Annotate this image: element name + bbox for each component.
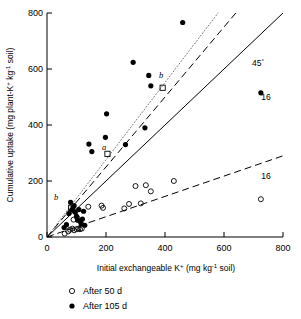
legend-label-after-50d: After 50 d: [83, 286, 122, 296]
annotation-count-lower: 16: [261, 171, 271, 181]
y-axis-title-end: soil): [5, 47, 15, 65]
x-tick-label-600: 600: [216, 243, 231, 253]
legend-label-after-105d: After 105 d: [83, 301, 127, 311]
y-axis-tick-labels: 0200400600800: [28, 8, 43, 242]
data-point-after-50d: [127, 201, 132, 206]
data-point-after-50d: [258, 197, 263, 202]
x-axis-title: Initial exchangeable K+ (mg kg-1 soil): [97, 263, 235, 273]
data-point-after-105d: [89, 149, 94, 154]
data-point-after-105d: [104, 111, 109, 116]
data-point-after-105d: [148, 83, 153, 88]
data-point-after-105d: [81, 209, 86, 214]
x-axis-title-end: soil): [217, 263, 235, 273]
data-point-after-105d: [80, 216, 85, 221]
data-point-after-105d: [146, 73, 151, 78]
y-tick-label-400: 400: [28, 120, 43, 130]
data-point-after-50d: [86, 204, 91, 209]
x-axis-title-mid: (mg kg: [184, 263, 213, 273]
line-one-to-one: [47, 13, 283, 237]
y-tick-label-200: 200: [28, 176, 43, 186]
x-tick-label-0: 0: [44, 243, 49, 253]
legend: After 50 d After 105 d: [69, 286, 127, 311]
annotation-letter-b-lower: b: [54, 192, 58, 202]
data-point-after-105d: [82, 223, 87, 228]
y-axis-title-main: Cumulative uptake (mg plant-K: [5, 85, 15, 202]
series-after-105d-points: [62, 20, 264, 230]
data-point-after-50d: [148, 189, 153, 194]
data-point-after-105d: [76, 207, 81, 212]
data-point-after-50d: [171, 179, 176, 184]
x-axis-tick-labels: 0200400600800: [44, 243, 290, 253]
figure-container: 45° 16 16 a b b 0200400600800 0200400600…: [0, 0, 301, 319]
data-point-after-105d: [123, 142, 128, 147]
series-after-50d-points: [62, 179, 263, 237]
annotation-45-degree: 45°: [252, 58, 264, 68]
legend-marker-filled-circle: [69, 303, 74, 308]
x-tick-label-200: 200: [98, 243, 113, 253]
annotation-letter-a: a: [102, 142, 106, 152]
y-axis-title-mid: kg: [5, 71, 15, 83]
annotation-count-upper: 16: [261, 92, 271, 102]
y-tick-label-600: 600: [28, 64, 43, 74]
y-axis-ticks: [47, 13, 52, 237]
y-axis-title: Cumulative uptake (mg plant-K+ kg-1 soil…: [5, 47, 15, 202]
annotation-degree-symbol: °: [262, 58, 265, 64]
data-point-after-50d: [133, 184, 138, 189]
y-tick-label-800: 800: [28, 8, 43, 18]
data-point-after-105d: [131, 60, 136, 65]
x-tick-label-800: 800: [275, 243, 290, 253]
y-tick-label-0: 0: [38, 232, 43, 242]
x-tick-label-400: 400: [157, 243, 172, 253]
data-point-after-105d: [103, 135, 108, 140]
x-axis-title-main: Initial exchangeable K: [97, 263, 181, 273]
annotation-letter-b-upper: b: [159, 70, 163, 80]
data-point-after-105d: [180, 20, 185, 25]
data-point-after-105d: [64, 222, 69, 227]
data-point-after-50d: [143, 183, 148, 188]
data-point-after-105d: [86, 141, 91, 146]
x-axis-ticks: [47, 232, 283, 237]
scatter-plot: 45° 16 16 a b b 0200400600800 0200400600…: [0, 0, 301, 319]
trend-lines: [47, 13, 283, 237]
annotation-45-value: 45: [252, 58, 262, 68]
data-point-after-105d: [142, 125, 147, 130]
legend-marker-open-circle: [69, 288, 74, 293]
square-markers: [69, 85, 166, 210]
